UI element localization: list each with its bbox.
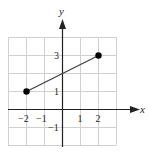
chart-svg: x y −2 −1 1 2 3 1 −1 — [0, 0, 148, 152]
y-tick-label: 3 — [54, 50, 59, 61]
y-tick-label: 1 — [54, 86, 59, 97]
y-tick-label: −1 — [48, 122, 59, 133]
x-tick-label: 2 — [96, 113, 101, 124]
x-axis — [8, 106, 140, 113]
x-axis-label: x — [139, 103, 145, 115]
x-tick-label: 1 — [78, 113, 83, 124]
x-tick-label: −2 — [18, 113, 29, 124]
coordinate-plane-figure: x y −2 −1 1 2 3 1 −1 — [0, 0, 148, 152]
y-axis-arrow-icon — [59, 19, 66, 29]
x-tick-label: −1 — [36, 113, 47, 124]
endpoint-right — [95, 52, 101, 58]
x-axis-arrow-icon — [130, 106, 140, 113]
y-axis-label: y — [58, 5, 64, 17]
endpoint-left — [23, 88, 29, 94]
